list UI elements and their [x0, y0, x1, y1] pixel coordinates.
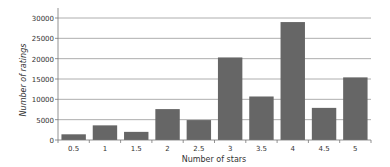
- x-tick-label: 2.5: [193, 145, 204, 153]
- bar: [343, 77, 367, 140]
- y-tick-label: 5000: [36, 117, 54, 125]
- x-tick-labels: 0.511.522.533.544.55: [58, 140, 371, 153]
- bars: [61, 22, 367, 140]
- y-tick-label: 15000: [32, 76, 54, 84]
- bar: [312, 108, 336, 140]
- bar: [187, 120, 211, 140]
- x-tick-label: 3: [228, 145, 232, 153]
- bar: [249, 96, 273, 140]
- x-tick-label: 4: [291, 145, 296, 153]
- y-tick-label: 0: [50, 137, 54, 145]
- x-tick-label: 1.5: [131, 145, 142, 153]
- bar: [124, 132, 148, 140]
- bar: [281, 22, 305, 140]
- bar: [61, 134, 85, 140]
- x-tick-label: 0.5: [68, 145, 79, 153]
- x-tick-label: 1: [103, 145, 107, 153]
- x-tick-label: 4.5: [318, 145, 329, 153]
- bar-chart: 050001000015000200002500030000 0.511.522…: [0, 0, 390, 167]
- y-tick-labels: 050001000015000200002500030000: [32, 15, 54, 145]
- bar: [155, 109, 179, 140]
- y-axis-label: Number of ratings: [19, 44, 28, 117]
- x-axis-label: Number of stars: [182, 155, 247, 164]
- bar: [93, 125, 117, 140]
- y-tick-label: 30000: [32, 15, 54, 23]
- y-tick-label: 10000: [32, 96, 54, 104]
- y-tick-label: 20000: [32, 56, 54, 64]
- x-tick-label: 2: [165, 145, 169, 153]
- y-tick-label: 25000: [32, 35, 54, 43]
- x-tick-label: 5: [353, 145, 357, 153]
- x-tick-label: 3.5: [256, 145, 267, 153]
- bar: [218, 57, 242, 140]
